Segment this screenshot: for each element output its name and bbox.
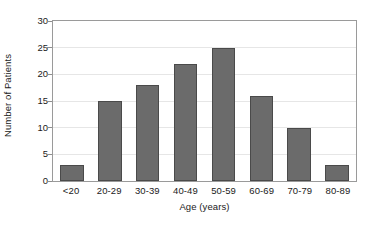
y-axis-tick-mark xyxy=(47,154,52,155)
bar xyxy=(287,128,310,181)
x-axis-tick-label: 20-29 xyxy=(90,184,128,200)
y-axis-title-text: Number of Patients xyxy=(3,53,14,136)
bar-slot xyxy=(129,21,167,181)
y-axis-tick-label: 25 xyxy=(18,43,48,53)
bar xyxy=(174,64,197,181)
x-axis-title-text: Age (years) xyxy=(179,201,229,212)
bar xyxy=(250,96,273,181)
y-axis-tick-label: 0 xyxy=(18,176,48,186)
y-axis-tick-label: 5 xyxy=(18,150,48,160)
bar xyxy=(60,165,83,181)
bar-slot xyxy=(167,21,205,181)
bar-slot xyxy=(205,21,243,181)
y-axis-tick-labels: 051015202530 xyxy=(18,0,48,226)
bar xyxy=(136,85,159,181)
y-axis-tick-mark xyxy=(47,74,52,75)
bar xyxy=(212,48,235,181)
bar xyxy=(98,101,121,181)
y-axis-tick-label: 15 xyxy=(18,96,48,106)
x-axis-tick-label: 70-79 xyxy=(281,184,319,200)
y-axis-tick-mark xyxy=(47,47,52,48)
bar-chart-figure: Number of Patients 051015202530 <2020-29… xyxy=(0,0,372,226)
bar-slot xyxy=(242,21,280,181)
y-axis-tick-mark xyxy=(47,181,52,182)
y-axis-tick-label: 20 xyxy=(18,70,48,80)
y-axis-title: Number of Patients xyxy=(0,0,16,190)
x-axis-tick-label: 40-49 xyxy=(166,184,204,200)
x-axis-tick-label: 60-69 xyxy=(243,184,281,200)
bar-series xyxy=(53,21,356,181)
y-axis-tick-mark xyxy=(47,21,52,22)
bar-slot xyxy=(318,21,356,181)
y-axis-tick-mark xyxy=(47,127,52,128)
plot-area xyxy=(52,20,357,182)
bar-slot xyxy=(53,21,91,181)
y-axis-tick-label: 10 xyxy=(18,123,48,133)
x-axis-tick-labels: <2020-2930-3940-4950-5960-6970-7980-89 xyxy=(52,184,357,200)
x-axis-tick-label: <20 xyxy=(52,184,90,200)
bar xyxy=(325,165,348,181)
y-axis-tick-mark xyxy=(47,101,52,102)
x-axis-tick-label: 50-59 xyxy=(205,184,243,200)
bar-slot xyxy=(91,21,129,181)
bar-slot xyxy=(280,21,318,181)
x-axis-tick-label: 30-39 xyxy=(128,184,166,200)
x-axis-title: Age (years) xyxy=(52,201,357,212)
x-axis-tick-label: 80-89 xyxy=(319,184,357,200)
y-axis-tick-label: 30 xyxy=(18,16,48,26)
